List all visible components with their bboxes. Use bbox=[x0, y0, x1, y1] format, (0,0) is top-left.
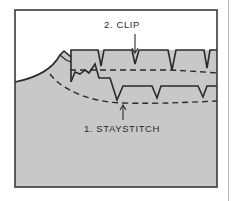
clip-label: 2. CLIP bbox=[104, 19, 140, 30]
staystitch-label: 1. STAYSTITCH bbox=[84, 123, 160, 134]
page-edge-divider bbox=[228, 0, 229, 201]
clip-arrow bbox=[132, 34, 138, 53]
diagram: 2. CLIP 1. STAYSTITCH bbox=[0, 0, 231, 201]
